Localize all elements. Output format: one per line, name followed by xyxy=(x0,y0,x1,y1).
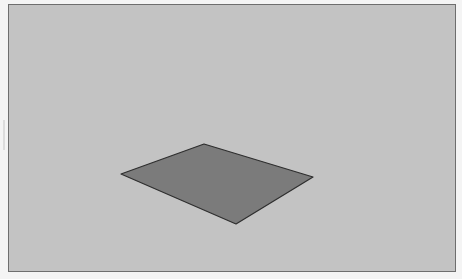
viewport-scene[interactable] xyxy=(0,0,462,279)
rectangle-face[interactable] xyxy=(121,144,313,224)
